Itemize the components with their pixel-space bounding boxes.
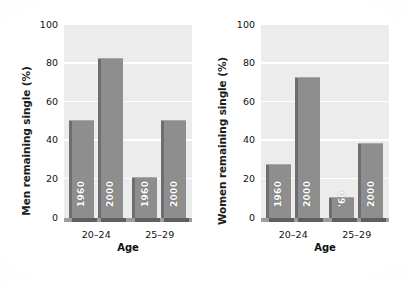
x-axis-title: Age: [259, 242, 391, 253]
y-tick-label: 40: [46, 135, 58, 145]
plot-area-women: 19602000'602000: [259, 22, 391, 224]
gridline: [64, 62, 192, 64]
y-tick-label: 20: [243, 174, 255, 184]
y-tick-label: 60: [243, 97, 255, 107]
bar-value-label: 1960: [140, 181, 150, 207]
y-tick-label: 80: [243, 58, 255, 68]
bar-value-label: 2000: [366, 181, 376, 207]
gridline: [261, 23, 389, 25]
chart-panel-men: Men remaining single (%) 020406080100 19…: [0, 0, 202, 282]
y-tick-label: 40: [243, 135, 255, 145]
chart-panel-women: Women remaining single (%) 020406080100 …: [201, 0, 403, 282]
bar-value-label: '60: [337, 191, 347, 207]
plot-area-men: 1960200019602000: [62, 22, 194, 224]
bar-shadow: [332, 218, 357, 222]
bar-value-label: 1960: [273, 181, 283, 207]
x-tick-label: 25–29: [325, 229, 389, 240]
gridline: [64, 101, 192, 103]
gridline: [261, 139, 389, 141]
x-tick-label: 20–24: [262, 229, 326, 240]
y-tick-label: 80: [46, 58, 58, 68]
bar-value-label: 2000: [169, 181, 179, 207]
y-tick-label: 20: [46, 174, 58, 184]
figure: Men remaining single (%) 020406080100 19…: [0, 0, 403, 282]
y-axis-title-women: Women remaining single (%): [223, 0, 239, 282]
x-tick-label: 25–29: [128, 229, 192, 240]
bar-shadow: [361, 218, 386, 222]
y-tick-label: 100: [237, 20, 255, 30]
bar-shadow: [101, 218, 126, 222]
bar-shadow: [72, 218, 97, 222]
bar-value-label: 2000: [105, 181, 115, 207]
bar-value-label: 1960: [76, 181, 86, 207]
bar-shadow: [298, 218, 323, 222]
y-axis-title-men: Men remaining single (%): [27, 0, 43, 282]
bar-shadow: [135, 218, 160, 222]
bar-shadow: [164, 218, 189, 222]
y-tick-label: 0: [52, 213, 58, 223]
gridline: [261, 101, 389, 103]
y-tick-label: 100: [40, 20, 58, 30]
bar-shadow: [269, 218, 294, 222]
y-tick-label: 0: [249, 213, 255, 223]
bar-value-label: 2000: [302, 181, 312, 207]
x-tick-label: 20–24: [65, 229, 129, 240]
x-axis-title: Age: [62, 242, 194, 253]
y-tick-label: 60: [46, 97, 58, 107]
gridline: [64, 23, 192, 25]
gridline: [261, 62, 389, 64]
